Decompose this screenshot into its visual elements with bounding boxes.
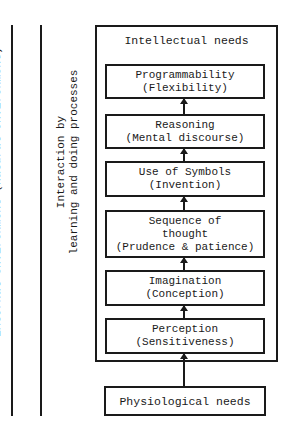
arrow-up-icon [183,306,185,318]
box-title-line2: thought [162,228,208,241]
arrow-up-icon [183,354,185,386]
box-sequence-of-thought: Sequence of thought (Prudence & patience… [105,210,265,258]
box-programmability: Programmability (Flexibility) [105,64,265,99]
box-perception: Perception (Sensitiveness) [105,318,265,354]
box-title: Physiological needs [119,395,250,408]
box-title: Programmability [135,69,234,82]
box-subtitle: (Flexibility) [142,82,228,95]
arrow-up-icon [183,258,185,270]
box-subtitle: (Conception) [145,288,224,301]
interaction-text-line2: learning and doing processes [68,62,81,262]
external-environment-label: External environment (natural environmen… [0,22,3,362]
box-subtitle: (Mental discourse) [126,132,245,145]
interaction-text-line1: Interaction by [55,62,68,262]
interaction-line [40,25,42,416]
arrow-up-icon [183,197,185,210]
external-environment-text: External environment (natural environmen… [0,47,3,337]
box-physiological-needs: Physiological needs [104,386,266,416]
box-subtitle: (Invention) [149,179,222,192]
arrow-up-icon [183,99,185,114]
box-title: Imagination [149,275,222,288]
box-title: Reasoning [155,119,214,132]
box-imagination: Imagination (Conception) [105,270,265,306]
intellectual-needs-title: Intellectual needs [97,34,276,47]
box-reasoning: Reasoning (Mental discourse) [105,114,265,149]
box-subtitle: (Sensitiveness) [135,336,234,349]
box-title: Sequence of [149,215,222,228]
box-subtitle: (Prudence & patience) [116,241,255,254]
box-title: Perception [152,323,218,336]
box-title: Use of Symbols [139,166,231,179]
interaction-label: Interaction by learning and doing proces… [55,62,81,262]
external-environment-line [11,25,13,416]
arrow-up-icon [183,149,185,161]
box-use-of-symbols: Use of Symbols (Invention) [105,161,265,197]
